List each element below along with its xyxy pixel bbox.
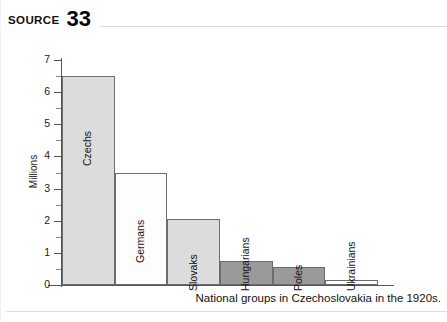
bar-czechs[interactable] — [62, 76, 115, 285]
header-divider — [100, 26, 447, 27]
y-tick-minor — [56, 76, 61, 77]
y-tick-label: 6 — [30, 85, 50, 97]
y-tick-label: 2 — [30, 214, 50, 226]
y-tick-major — [54, 60, 61, 61]
y-tick-major — [54, 156, 61, 157]
caption-divider — [6, 311, 447, 312]
y-tick-label: 0 — [30, 278, 50, 290]
source-label: SOURCE — [8, 14, 60, 26]
figure-caption: National groups in Czechoslovakia in the… — [0, 292, 441, 304]
y-tick-major — [54, 221, 61, 222]
y-tick-major — [54, 92, 61, 93]
y-tick-major — [54, 285, 61, 286]
x-axis-line — [48, 285, 394, 286]
y-tick-label: 4 — [30, 149, 50, 161]
bar-chart: Millions 01234567 CzechsGermansSlovaksHu… — [0, 34, 447, 289]
bar-label-germans: Germans — [134, 219, 146, 262]
bar-label-czechs: Czechs — [81, 131, 93, 166]
y-tick-minor — [56, 237, 61, 238]
y-tick-label: 3 — [30, 182, 50, 194]
y-tick-label: 7 — [30, 53, 50, 65]
bar-label-poles: Poles — [292, 265, 304, 291]
y-tick-minor — [56, 205, 61, 206]
bar-label-ukrainians: Ukrainians — [345, 241, 357, 291]
y-tick-minor — [56, 140, 61, 141]
y-tick-label: 1 — [30, 246, 50, 258]
source-number: 33 — [67, 8, 91, 30]
bar-label-slovaks: Slovaks — [187, 254, 199, 291]
y-tick-major — [54, 189, 61, 190]
y-tick-minor — [56, 108, 61, 109]
y-tick-minor — [56, 173, 61, 174]
y-axis-title: Millions — [28, 137, 39, 207]
y-tick-minor — [56, 269, 61, 270]
bar-series: CzechsGermansSlovaksHungariansPolesUkrai… — [62, 60, 378, 285]
y-tick-major — [54, 253, 61, 254]
source-figure-page: SOURCE 33 Millions 01234567 CzechsGerman… — [0, 0, 447, 322]
bar-label-hungarians: Hungarians — [239, 237, 251, 291]
y-tick-major — [54, 124, 61, 125]
y-tick-label: 5 — [30, 117, 50, 129]
source-header: SOURCE 33 — [8, 6, 91, 28]
